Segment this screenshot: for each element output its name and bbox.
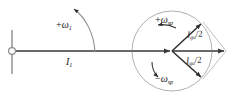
phasor-diagram-figure: +ω1 I1 +ωsp −ωsp Igu/2 Igu/2 (0, 0, 234, 98)
phasor-diagram-canvas (0, 0, 234, 98)
origin-node (9, 48, 16, 55)
label-i-1-subscript: 1 (69, 61, 72, 68)
label-omega-sp-positive-symbol: ω (161, 14, 168, 25)
rotation-arc-omega-sp-positive (158, 25, 176, 28)
label-igu-half-lower-subscript: gu (189, 60, 195, 66)
label-igu-half-upper: Igu/2 (187, 30, 203, 40)
label-igu-half-upper-divisor: /2 (195, 29, 203, 39)
label-igu-half-lower-divisor: /2 (194, 55, 202, 65)
label-omega-1-symbol: ω (62, 19, 69, 30)
label-i-1: I1 (66, 57, 72, 67)
label-omega-sp-positive: +ωsp (155, 15, 173, 25)
label-omega-1: +ω1 (56, 20, 72, 30)
rotation-arc-omega1 (74, 9, 95, 52)
construction-line-upper (203, 22, 226, 51)
label-igu-half-upper-subscript: gu (190, 34, 196, 40)
label-omega-sp-negative-symbol: ω (161, 73, 168, 84)
label-omega-sp-negative-subscript: sp (168, 78, 174, 85)
label-omega-1-subscript: 1 (69, 24, 72, 31)
label-omega-sp-negative: −ωsp (155, 74, 173, 84)
construction-line-lower (203, 51, 226, 79)
label-omega-sp-positive-subscript: sp (168, 19, 174, 26)
label-igu-half-lower: Igu/2 (186, 56, 202, 66)
